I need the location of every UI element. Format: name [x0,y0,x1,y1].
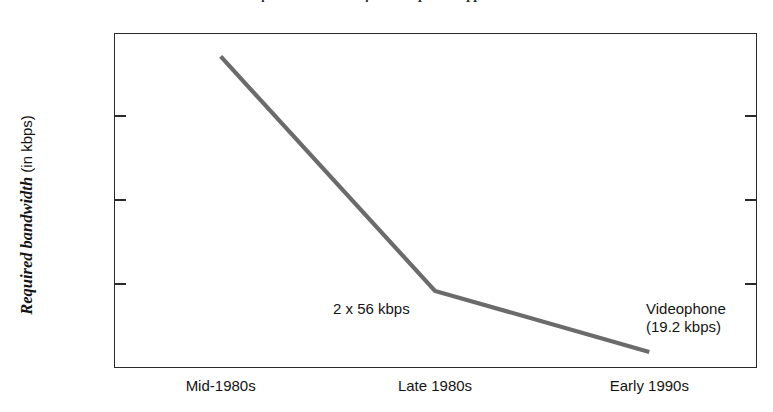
x-tick-label-early-1990s: Early 1990s [569,377,729,394]
y-axis-title: Required bandwidth (in kbps) [17,80,37,350]
y-axis-title-units: (in kbps) [18,115,35,173]
y-tick-mark-left-100 [115,283,126,285]
y-tick-mark-left-300 [115,115,126,117]
x-tick-label-late-1980s: Late 1980s [355,377,515,394]
annotation-videophone-line1: Videophone [646,300,726,318]
chart-title: Required Bandwidth for Videophone Applic… [0,0,773,3]
chart-figure: Required Bandwidth for Videophone Applic… [0,0,773,412]
y-tick-mark-right-300 [745,115,756,117]
y-tick-mark-left-200 [115,199,126,201]
annotation-2x56-kbps: 2 x 56 kbps [333,300,410,318]
x-tick-label-mid-1980s: Mid-1980s [141,377,301,394]
y-tick-mark-right-200 [745,199,756,201]
y-tick-mark-right-100 [745,283,756,285]
y-axis-title-emphasis: Required bandwidth [17,177,36,315]
annotation-videophone-line2: (19.2 kbps) [646,318,726,336]
annotation-videophone: Videophone (19.2 kbps) [646,300,726,337]
